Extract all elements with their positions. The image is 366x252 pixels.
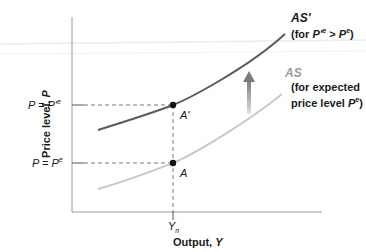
axis-text: Output,	[173, 236, 215, 248]
note-text: )	[350, 28, 354, 40]
tick-sub: n	[175, 227, 179, 234]
point-a-prime-label: A'	[180, 109, 189, 121]
point-a-dot	[170, 160, 176, 166]
note-text: price level	[291, 97, 348, 109]
as-label: AS	[285, 67, 302, 79]
axis-var: Y	[215, 236, 222, 248]
as-prime-note: (for P'e > Pe)	[291, 25, 354, 40]
y-axis-label: Price level, P	[40, 74, 52, 174]
scan-artifact	[0, 51, 366, 54]
scan-artifact	[0, 40, 366, 44]
note-text: >	[326, 28, 339, 40]
as-prime-curve	[98, 34, 285, 130]
shift-arrow-head	[243, 71, 255, 82]
as-curve	[98, 94, 282, 189]
tick-sup: e	[59, 156, 63, 163]
note-var: P'	[312, 28, 322, 40]
shift-arrow-shaft	[247, 80, 251, 114]
point-a-label: A	[180, 167, 187, 179]
as-note-line2: price level Pe)	[291, 94, 363, 109]
note-text: )	[359, 97, 363, 109]
x-axis-label: Output, Y	[173, 236, 223, 248]
as-note-line1: (for expected	[291, 81, 360, 93]
axis-var: P	[40, 90, 52, 97]
note-text: (for	[291, 28, 312, 40]
axis-text: Price level,	[40, 97, 52, 158]
as-prime-label: AS'	[291, 12, 311, 24]
point-a-prime-dot	[170, 102, 176, 108]
tick-label-yn: Yn	[168, 220, 179, 234]
tick-sup: e	[57, 98, 61, 105]
